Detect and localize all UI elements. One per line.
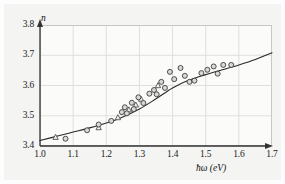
data-point-circle bbox=[187, 79, 192, 84]
x-tick-label: 1.0 bbox=[27, 149, 53, 159]
y-tick-label: 3.6 bbox=[8, 80, 34, 90]
data-point-circle bbox=[221, 62, 226, 67]
x-tick-label: 1.1 bbox=[60, 149, 86, 159]
data-point-circle bbox=[124, 111, 129, 116]
x-tick-label: 1.4 bbox=[160, 149, 186, 159]
data-point-circle bbox=[215, 71, 220, 76]
x-tick-label: 1.2 bbox=[93, 149, 119, 159]
data-point-circle bbox=[162, 85, 167, 90]
x-tick-label: 1.7 bbox=[259, 149, 285, 159]
y-tick-label: 3.7 bbox=[8, 49, 34, 59]
x-axis-title-symbol: ħω (eV) bbox=[196, 163, 226, 173]
plot-svg bbox=[40, 25, 272, 146]
x-axis-title: ħω (eV) bbox=[196, 163, 226, 173]
y-axis-title: n bbox=[41, 13, 46, 23]
data-point-circle bbox=[229, 62, 234, 67]
x-tick-label: 1.6 bbox=[226, 149, 252, 159]
data-point-circle bbox=[119, 110, 124, 115]
y-tick-label: 3.8 bbox=[8, 19, 34, 29]
data-point-circle bbox=[172, 77, 177, 82]
data-point-circle bbox=[129, 100, 134, 105]
data-point-circle bbox=[63, 136, 68, 141]
y-tick-label: 3.5 bbox=[8, 110, 34, 120]
data-point-circle bbox=[167, 69, 172, 74]
data-point-circle bbox=[154, 92, 159, 97]
data-point-circle bbox=[147, 91, 152, 96]
data-point-circle bbox=[205, 67, 210, 72]
data-point-circle bbox=[109, 118, 114, 123]
data-point-circle bbox=[136, 95, 141, 100]
data-point-circle bbox=[96, 122, 101, 127]
data-point-circle bbox=[192, 78, 197, 83]
x-tick-label: 1.5 bbox=[193, 149, 219, 159]
plot-area bbox=[40, 25, 272, 146]
data-point-circle bbox=[182, 73, 187, 78]
data-point-circle bbox=[159, 79, 164, 84]
data-point-circle bbox=[131, 107, 136, 112]
data-point-circle bbox=[122, 105, 127, 110]
data-point-circle bbox=[199, 71, 204, 76]
data-point-circle bbox=[178, 65, 183, 70]
x-tick-label: 1.3 bbox=[126, 149, 152, 159]
figure-refractive-index-gaas: n GaAs 3.43.53.63.73.8 1.01.11.21.31.41.… bbox=[0, 0, 285, 184]
data-point-circle bbox=[141, 101, 146, 106]
data-point-circle bbox=[211, 64, 216, 69]
data-point-circle bbox=[85, 128, 90, 133]
